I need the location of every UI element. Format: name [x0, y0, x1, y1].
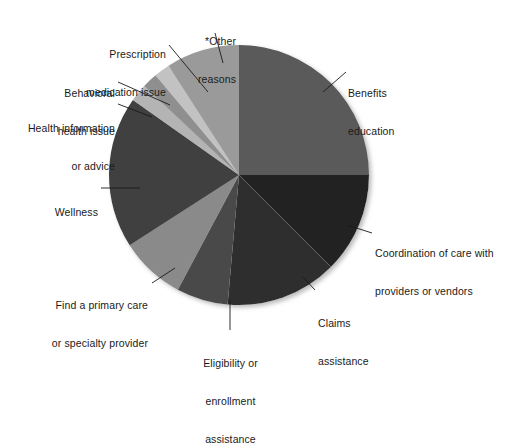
label-eligibility-line2: enrollment — [193, 395, 268, 408]
label-eligibility-line3: assistance — [193, 433, 268, 446]
label-wellness-line1: Wellness — [40, 206, 98, 219]
label-find-provider-line1: Find a primary care — [34, 299, 148, 312]
label-eligibility-enrollment: Eligibility or enrollment assistance — [193, 332, 268, 447]
label-claims-assistance: Claims assistance — [318, 292, 369, 393]
label-prescription-line1: Prescription — [58, 48, 166, 61]
label-coordination-line2: providers or vendors — [375, 285, 494, 298]
label-benefits-education: Benefits education — [348, 62, 394, 163]
label-find-provider: Find a primary care or specialty provide… — [34, 274, 148, 375]
label-claims-line1: Claims — [318, 317, 369, 330]
label-other-reasons-line1: *Other — [176, 35, 236, 48]
label-benefits-education-line1: Benefits — [348, 87, 394, 100]
label-coordination-line1: Coordination of care with — [375, 247, 494, 260]
label-prescription-line2: medication issue — [58, 86, 166, 99]
label-find-provider-line2: or specialty provider — [34, 337, 148, 350]
label-eligibility-line1: Eligibility or — [193, 357, 268, 370]
label-other-reasons-line2: reasons — [176, 73, 236, 86]
label-benefits-education-line2: education — [348, 125, 394, 138]
label-prescription-medication: Prescription medication issue — [58, 23, 166, 124]
label-other-reasons: *Other reasons — [176, 10, 236, 111]
label-claims-line2: assistance — [318, 355, 369, 368]
label-coordination-of-care: Coordination of care with providers or v… — [375, 222, 494, 323]
label-behavioral-line2: health issue — [38, 125, 115, 138]
